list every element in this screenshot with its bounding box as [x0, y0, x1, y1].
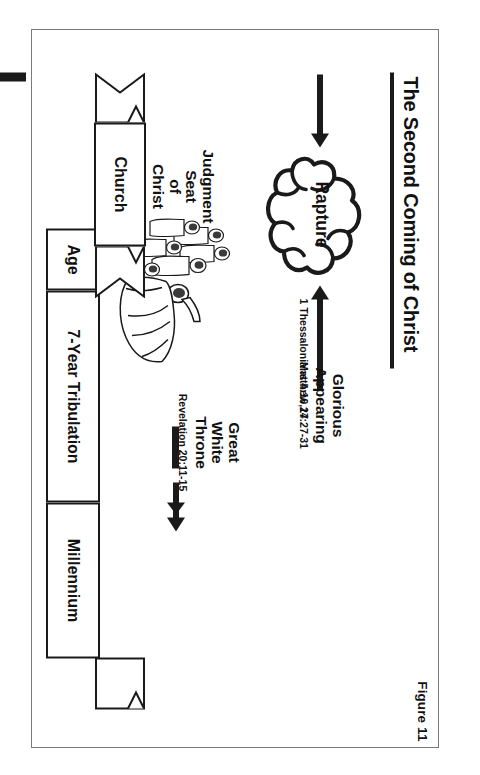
arrow-right-icon — [173, 482, 179, 518]
arrow-right-icon — [317, 74, 323, 134]
timeline-segment-millennium-label: Millennium — [64, 504, 82, 656]
timeline-segment-tribulation: 7-Year Tribulation — [46, 290, 100, 502]
timeline-segment-tribulation-label: 7-Year Tribulation — [64, 292, 82, 500]
ribbon-tail-icon — [90, 656, 146, 710]
great-white-throne-line1: Great — [225, 382, 242, 502]
glorious-appearing-line1: Glorious — [329, 346, 346, 464]
glorious-appearing-line2: Appearing — [313, 346, 330, 464]
timeline-church-banner: Church — [94, 122, 146, 246]
timeline-segment-millennium: Millennium — [46, 502, 100, 658]
great-white-throne-line3: Throne — [192, 382, 209, 502]
great-white-throne-block: Great White Throne Revelation 20:11-15 — [177, 382, 242, 502]
glorious-appearing-reference: Matthew 24:27-31 — [298, 346, 310, 464]
title-underline — [390, 72, 394, 368]
rotated-diagram-stage: Figure 11 The Second Coming of Christ Ra… — [32, 30, 438, 747]
figure-frame: Figure 11 The Second Coming of Christ Ra… — [31, 29, 439, 748]
timeline-segment-age-label: Age — [64, 230, 82, 288]
ribbon-tail-icon — [90, 244, 146, 298]
cross-icon — [0, 72, 26, 81]
glorious-appearing-block: Glorious Appearing Matthew 24:27-31 — [298, 346, 346, 464]
rapture-label: Rapture — [311, 148, 332, 280]
figure-number-label: Figure 11 — [415, 681, 430, 741]
ribbon-tail-icon — [90, 72, 146, 124]
great-white-throne-line2: White — [209, 382, 226, 502]
cloud-icon: Rapture — [260, 148, 376, 280]
glorious-appearing-connector — [172, 426, 179, 468]
page-title: The Second Coming of Christ — [399, 76, 422, 352]
timeline-church-label: Church — [111, 124, 129, 244]
